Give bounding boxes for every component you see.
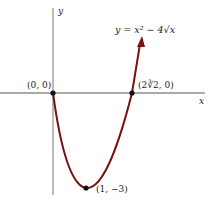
intercept-label: (2∛2, 0) (138, 80, 174, 90)
point-minimum (83, 185, 88, 190)
equation-label: y = x² − 4√x (115, 24, 175, 35)
point-origin (50, 90, 55, 95)
minimum-label: (1, −3) (96, 184, 128, 194)
x-axis-label: x (199, 96, 204, 106)
graph (0, 0, 211, 203)
y-axis-label: y (58, 6, 63, 16)
arrow-icon (137, 36, 145, 47)
origin-label: (0, 0) (27, 80, 51, 90)
curve (53, 44, 140, 188)
point-x-intercept (129, 90, 134, 95)
